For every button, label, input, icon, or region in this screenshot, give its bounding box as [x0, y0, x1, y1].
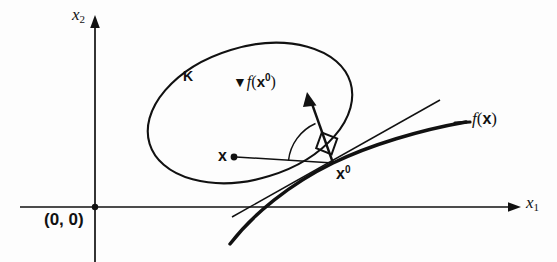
math-diagram-figure: x2 x1 (0, 0) K x x0 ▼f(x0) f(x)	[0, 0, 557, 262]
nabla-icon: ▼	[233, 74, 247, 90]
x2-axis-arrowhead	[90, 15, 100, 28]
gradient-label-close-paren: )	[271, 73, 276, 90]
point-x-dot	[231, 154, 238, 161]
x2-axis-label-letter: x	[72, 5, 80, 24]
x2-axis-label: x2	[72, 6, 85, 23]
x1-axis-label-subscript: 1	[534, 201, 540, 213]
x1-axis-label-letter: x	[526, 193, 534, 212]
axes-group	[20, 15, 521, 262]
gradient-vector-arrowhead	[303, 92, 317, 107]
function-curve-label-vec: x	[482, 110, 491, 127]
origin-label: (0, 0)	[44, 211, 84, 228]
segment-x-to-x0	[236, 157, 333, 163]
angle-arc	[289, 124, 316, 161]
x2-axis-label-subscript: 2	[80, 13, 86, 25]
function-curve-label: f(x)	[472, 110, 497, 127]
point-x-label: x	[218, 148, 227, 164]
x1-axis-label: x1	[526, 194, 539, 211]
function-curve-fx	[230, 122, 466, 244]
gradient-label-superscript: 0	[265, 72, 271, 83]
function-curve-label-leader	[455, 122, 470, 123]
segment-x-to-x0-group	[231, 154, 333, 163]
point-x0-label-letter: x	[336, 165, 345, 182]
point-x0-label: x0	[336, 166, 350, 182]
gradient-label: ▼f(x0)	[233, 74, 276, 90]
point-x0-label-superscript: 0	[345, 164, 351, 175]
origin-dot	[92, 204, 98, 210]
convex-set-k-boundary	[130, 19, 369, 207]
convex-set-k-group	[130, 19, 369, 207]
angle-arc-group	[289, 124, 316, 161]
convex-set-k-label: K	[183, 69, 193, 83]
gradient-label-vec: x	[257, 73, 265, 90]
function-curve-group	[230, 122, 470, 244]
function-curve-label-close-paren: )	[491, 109, 497, 128]
x1-axis-arrowhead	[508, 202, 521, 212]
